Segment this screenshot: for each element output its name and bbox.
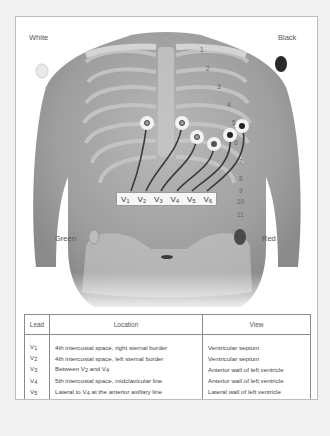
lead-label-v6: V6 — [204, 195, 212, 204]
red-label: Red — [262, 234, 276, 243]
rib-number: 2 — [206, 65, 210, 72]
white-electrode-icon — [36, 64, 48, 78]
table-row: V5 Lateral to V4 at the anterior axillar… — [25, 386, 311, 397]
lead-cell: V6 — [25, 397, 50, 400]
table-header-row: Lead Location View — [25, 315, 311, 335]
view-cell: Ventricular septum — [203, 335, 311, 353]
table-row: V2 4th intercostal space, left sternal b… — [25, 353, 311, 364]
black-label: Black — [278, 33, 296, 42]
rib-number: 5 — [232, 119, 236, 126]
table-row: V4 5th intercostal space, midclavicular … — [25, 375, 311, 386]
location-cell: 5th intercostal space, midclavicular lin… — [50, 375, 203, 386]
rib-number: 3 — [217, 83, 221, 90]
rib-number: 7 — [239, 158, 243, 165]
header-view: View — [203, 315, 311, 335]
view-cell: Ventricular septum — [203, 353, 311, 364]
location-cell: 4th intercostal space, left sternal bord… — [50, 353, 203, 364]
view-cell: Lateral wall of left ventricle — [203, 386, 311, 397]
header-lead: Lead — [25, 315, 50, 335]
figure-frame: White Black Green Red 1 2 3 4 5 6 7 8 9 … — [15, 16, 318, 400]
header-location: Location — [50, 315, 203, 335]
rib-number: 11 — [237, 211, 244, 218]
rib-number: 10 — [237, 198, 244, 205]
precordial-leads-label-box: V1 V2 V3 V4 V5 V6 — [116, 192, 217, 206]
view-cell: Anterior wall of left ventricle — [203, 375, 311, 386]
red-electrode-icon — [234, 229, 246, 245]
green-label: Green — [55, 234, 76, 243]
lead-label-v2: V2 — [138, 195, 146, 204]
lead-cell: V3 — [25, 364, 50, 375]
black-electrode-icon — [275, 56, 287, 72]
rib-number: 1 — [200, 46, 204, 53]
rib-number: 4 — [227, 101, 231, 108]
table-row: V1 4th intercostal space, right sternal … — [25, 335, 311, 353]
lead-placement-table: Lead Location View V1 4th intercostal sp… — [24, 314, 311, 400]
location-cell: 4th intercostal space, right sternal bor… — [50, 335, 203, 353]
view-cell: Lateral wall of left ventricle — [203, 397, 311, 400]
view-cell: Anterior wall of left ventricle — [203, 364, 311, 375]
lead-label-v4: V4 — [171, 195, 179, 204]
table-row: V3 Between V2 and V4 Anterior wall of le… — [25, 364, 311, 375]
torso-illustration — [16, 17, 318, 313]
rib-number: 8 — [239, 175, 243, 182]
location-cell: Lateral to V5 at midaxillary line — [50, 397, 203, 400]
lead-label-v1: V1 — [121, 195, 129, 204]
lead-cell: V1 — [25, 335, 50, 353]
lead-cell: V2 — [25, 353, 50, 364]
lead-cell: V4 — [25, 375, 50, 386]
location-cell: Lateral to V4 at the anterior axillary l… — [50, 386, 203, 397]
location-cell: Between V2 and V4 — [50, 364, 203, 375]
green-electrode-icon — [89, 230, 99, 244]
white-label: White — [29, 33, 48, 42]
table-row: V6 Lateral to V5 at midaxillary line Lat… — [25, 397, 311, 400]
lead-label-v5: V5 — [187, 195, 195, 204]
lead-label-v3: V3 — [154, 195, 162, 204]
rib-number: 6 — [234, 139, 238, 146]
rib-number: 9 — [239, 187, 243, 194]
lead-cell: V5 — [25, 386, 50, 397]
